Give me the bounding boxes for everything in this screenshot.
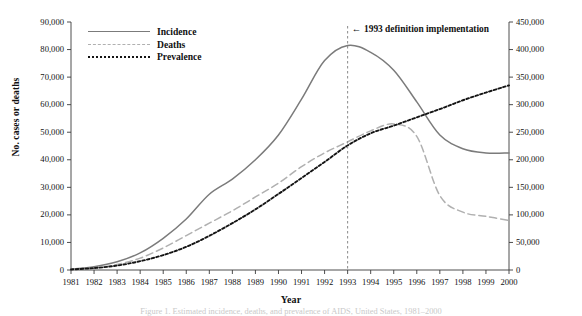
y-tick-left-10000: 10,000 bbox=[0, 237, 64, 247]
left-arrow-icon: ← bbox=[352, 24, 361, 34]
y-tick-left-60000: 60,000 bbox=[0, 99, 64, 109]
series-group bbox=[71, 45, 509, 269]
aids-trend-chart: No. cases or deaths No. persons living w… bbox=[0, 0, 582, 316]
y-tick-left-80000: 80,000 bbox=[0, 44, 64, 54]
y-tick-left-70000: 70,000 bbox=[0, 72, 64, 82]
legend-label-incidence: Incidence bbox=[157, 27, 196, 37]
y-tick-right-50000: 50,000 bbox=[516, 237, 540, 247]
y-tick-left-40000: 40,000 bbox=[0, 154, 64, 164]
series-line-prevalence bbox=[71, 85, 509, 269]
series-line-incidence bbox=[71, 45, 509, 269]
y-tick-right-400000: 400,000 bbox=[516, 44, 544, 54]
chart-legend: Incidence Deaths Prevalence bbox=[88, 26, 202, 64]
y-tick-right-300000: 300,000 bbox=[516, 99, 544, 109]
y-tick-right-150000: 150,000 bbox=[516, 182, 544, 192]
y-tick-left-0: 0 bbox=[0, 265, 64, 275]
y-tick-right-450000: 450,000 bbox=[516, 17, 544, 27]
series-line-deaths bbox=[71, 124, 509, 270]
y-tick-right-0: 0 bbox=[516, 265, 520, 275]
legend-label-prevalence: Prevalence bbox=[157, 52, 202, 62]
annotation-text: 1993 definition implementation bbox=[364, 24, 489, 34]
y-tick-right-250000: 250,000 bbox=[516, 127, 544, 137]
legend-item-deaths: Deaths bbox=[88, 39, 202, 52]
y-tick-left-50000: 50,000 bbox=[0, 127, 64, 137]
figure-caption: Figure 1. Estimated incidence, deaths, a… bbox=[0, 307, 582, 316]
legend-item-prevalence: Prevalence bbox=[88, 51, 202, 64]
y-tick-left-20000: 20,000 bbox=[0, 209, 64, 219]
legend-label-deaths: Deaths bbox=[157, 40, 185, 50]
y-tick-left-30000: 30,000 bbox=[0, 182, 64, 192]
y-tick-right-200000: 200,000 bbox=[516, 154, 544, 164]
y-tick-right-350000: 350,000 bbox=[516, 72, 544, 82]
y-tick-right-100000: 100,000 bbox=[516, 209, 544, 219]
y-tick-left-90000: 90,000 bbox=[0, 17, 64, 27]
annotation-1993-definition: ←1993 definition implementation bbox=[352, 24, 489, 34]
x-tick-2000: 2000 bbox=[493, 277, 525, 287]
legend-item-incidence: Incidence bbox=[88, 26, 202, 39]
